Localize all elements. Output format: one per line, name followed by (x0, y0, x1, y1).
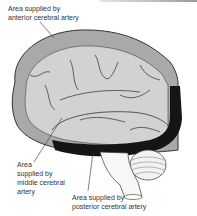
label-anterior-cerebral-artery: Area supplied by anterior cerebral arter… (8, 4, 79, 22)
leader-line-anterior (40, 22, 54, 38)
label-middle-cerebral-artery: Area supplied by middle cerebral artery (17, 160, 65, 196)
label-posterior-cerebral-artery: Area supplied by posterior cerebral arte… (72, 193, 146, 211)
leader-line-posterior (88, 152, 93, 191)
cerebellum (130, 150, 166, 180)
